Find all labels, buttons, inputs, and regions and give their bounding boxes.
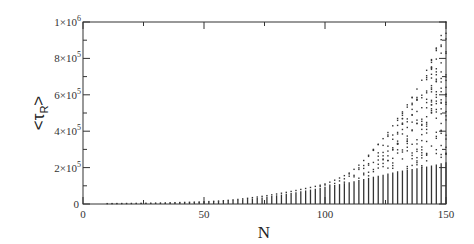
y-tick-label: 6×105 xyxy=(54,87,81,101)
y-tick-label: 4×105 xyxy=(54,123,81,137)
y-axis-ticks: 02×1054×1056×1058×1051×106 xyxy=(54,14,446,210)
y-axis-title: <τR> xyxy=(29,96,50,131)
y-tick-label: 1×106 xyxy=(54,14,81,28)
data-points xyxy=(107,21,447,204)
x-tick-label: 50 xyxy=(199,208,211,220)
x-tick-label: 0 xyxy=(80,208,86,220)
x-tick-label: 100 xyxy=(317,208,334,220)
svg-text:<τR>: <τR> xyxy=(29,96,50,131)
x-axis-title: N xyxy=(258,223,270,242)
x-axis-ticks: 050100150 xyxy=(80,22,455,220)
chart: 050100150 02×1054×1056×1058×1051×106 N <… xyxy=(0,0,474,244)
plot-frame xyxy=(83,22,446,204)
y-tick-label: 2×105 xyxy=(54,160,81,174)
y-tick-label: 0 xyxy=(74,198,80,210)
x-tick-label: 150 xyxy=(438,208,455,220)
y-tick-label: 8×105 xyxy=(54,50,81,64)
